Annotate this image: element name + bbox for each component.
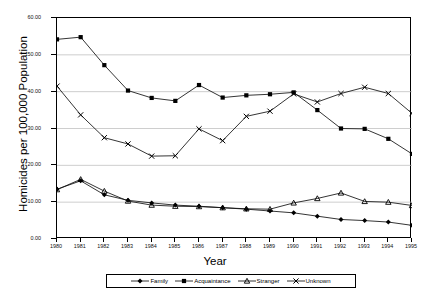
y-tick-label: 40.00 (7, 88, 41, 94)
legend-marker-triangle-icon (238, 276, 256, 286)
data-point-square (386, 137, 390, 141)
series-stranger (57, 177, 412, 212)
data-point-square (268, 92, 272, 96)
series-line (57, 179, 412, 209)
data-point-cross (196, 126, 201, 131)
x-axis-tick (340, 238, 341, 242)
x-axis-title: Year (0, 255, 430, 267)
x-axis-tick (293, 238, 294, 242)
x-axis-tick (245, 238, 246, 242)
x-axis-tick (151, 238, 152, 242)
legend-item-label: Unknown (306, 278, 331, 284)
data-point-diamond (410, 223, 413, 228)
legend-item-label: Stranger (257, 278, 280, 284)
x-axis-tick (198, 238, 199, 242)
data-point-cross (362, 85, 367, 90)
y-tick-label: 20.00 (7, 161, 41, 167)
y-tick-label: 0.00 (7, 235, 41, 241)
legend-item-family[interactable]: Family (131, 276, 168, 286)
line-chart: Homicides per 100,000 Population 0.0010.… (0, 0, 430, 295)
series-line (57, 181, 412, 226)
data-point-cross (102, 135, 107, 140)
y-tick-label: 60.00 (7, 14, 41, 20)
x-axis-tick (387, 238, 388, 242)
data-point-cross (220, 138, 225, 143)
data-point-square (221, 95, 225, 99)
legend-marker-cross-icon (287, 276, 305, 286)
data-point-diamond (386, 220, 391, 225)
legend-item-stranger[interactable]: Stranger (238, 276, 280, 286)
series-acquaintance (57, 35, 412, 156)
data-point-square (150, 96, 154, 100)
data-point-diamond (291, 210, 296, 215)
legend-item-unknown[interactable]: Unknown (287, 276, 331, 286)
data-point-square (410, 152, 412, 156)
data-point-diamond (339, 217, 344, 222)
legend-item-acquaintance[interactable]: Acquaintance (175, 276, 230, 286)
y-tick-label: 30.00 (7, 125, 41, 131)
y-tick-label: 50.00 (7, 51, 41, 57)
x-axis-tick (103, 238, 104, 242)
x-tick-label: 1995 (396, 243, 426, 249)
series-family (57, 178, 412, 228)
data-point-cross (315, 99, 320, 104)
data-point-diamond (315, 214, 320, 219)
data-point-square (197, 83, 201, 87)
legend-marker-square-icon (175, 276, 193, 286)
legend-item-label: Family (150, 278, 168, 284)
data-point-diamond (138, 279, 143, 284)
data-point-cross (409, 111, 412, 116)
x-axis-tick (364, 238, 365, 242)
data-point-cross (57, 84, 60, 89)
data-point-square (339, 126, 343, 130)
data-point-square (182, 279, 186, 283)
series-unknown (57, 84, 412, 159)
x-axis-tick (269, 238, 270, 242)
x-axis-tick (222, 238, 223, 242)
data-point-cross (125, 141, 130, 146)
data-point-square (244, 93, 248, 97)
x-axis-tick (127, 238, 128, 242)
data-point-cross (78, 112, 83, 117)
plot-svg (57, 18, 412, 239)
x-axis-tick (174, 238, 175, 242)
plot-area (56, 17, 411, 238)
x-axis-tick (411, 238, 412, 242)
chart-legend: FamilyAcquaintanceStrangerUnknown (106, 274, 356, 288)
data-point-square (126, 88, 130, 92)
data-point-square (315, 108, 319, 112)
data-point-square (173, 99, 177, 103)
data-point-square (57, 37, 59, 41)
legend-marker-diamond-icon (131, 276, 149, 286)
data-point-square (102, 63, 106, 67)
data-point-square (363, 127, 367, 131)
data-point-diamond (362, 218, 367, 223)
y-tick-label: 10.00 (7, 198, 41, 204)
x-axis-tick (316, 238, 317, 242)
legend-item-label: Acquaintance (194, 278, 230, 284)
x-axis-tick (80, 238, 81, 242)
data-point-square (79, 35, 83, 39)
x-axis-tick (56, 238, 57, 242)
